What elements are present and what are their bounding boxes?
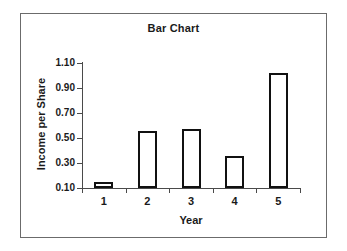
y-axis-tick-label: 1.10 xyxy=(56,58,75,68)
bar xyxy=(182,129,201,188)
figure-canvas: Bar Chart 1.100.900.700.500.300.10 12345… xyxy=(0,0,347,251)
x-axis-line xyxy=(82,188,300,189)
x-axis-tick xyxy=(300,188,301,193)
x-axis-tick-label: 4 xyxy=(215,196,255,207)
y-axis-tick-label: 0.30 xyxy=(56,158,75,168)
bar xyxy=(138,131,157,189)
y-axis-tick-label: 0.10 xyxy=(56,183,75,193)
x-axis-tick xyxy=(82,188,83,193)
chart-title: Bar Chart xyxy=(20,22,327,34)
bar xyxy=(94,182,113,188)
x-axis-tick xyxy=(126,188,127,193)
y-axis-tick-label: 0.50 xyxy=(56,133,75,143)
y-axis-tick-label: 0.70 xyxy=(56,108,75,118)
x-axis-tick-label: 5 xyxy=(258,196,298,207)
bar xyxy=(269,73,288,188)
x-axis-tick xyxy=(213,188,214,193)
x-axis-tick-label: 3 xyxy=(171,196,211,207)
x-axis-tick xyxy=(256,188,257,193)
x-axis-tick xyxy=(169,188,170,193)
x-axis-tick-label: 2 xyxy=(127,196,167,207)
x-axis-tick-label: 1 xyxy=(84,196,124,207)
bar xyxy=(225,156,244,189)
x-axis-title: Year xyxy=(82,214,300,226)
y-axis-tick-label: 0.90 xyxy=(56,83,75,93)
y-axis-title: Income per Share xyxy=(35,64,47,184)
plot-area xyxy=(82,63,300,188)
